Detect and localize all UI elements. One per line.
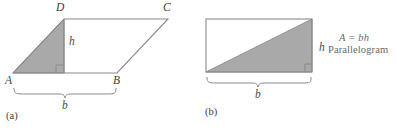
panel-b-base-brace xyxy=(207,77,311,87)
vertex-label-d: D xyxy=(56,2,64,14)
shape-name-caption: Parallelogram xyxy=(328,45,388,56)
panel-a-base-brace xyxy=(14,88,116,98)
panel-b-caption: (b) xyxy=(205,107,217,118)
panel-a-height-label: h xyxy=(69,36,75,48)
panel-b-graphics xyxy=(206,19,312,87)
panel-b-base-label: b xyxy=(255,89,261,101)
figure-container: D C A B h b (a) h b (b) A = bh Parallelo… xyxy=(0,0,398,129)
vertex-label-c: C xyxy=(163,2,171,14)
panel-a-base-label: b xyxy=(62,100,68,112)
panel-a-graphics xyxy=(13,19,168,98)
vertex-label-a: A xyxy=(5,75,12,87)
panel-b-shaded-triangle xyxy=(206,19,312,72)
vertex-label-b: B xyxy=(113,75,120,87)
panel-b-height-label: h xyxy=(319,42,325,54)
area-formula: A = bh xyxy=(339,33,369,44)
panel-a-caption: (a) xyxy=(6,111,18,122)
geometry-figure xyxy=(0,0,398,129)
